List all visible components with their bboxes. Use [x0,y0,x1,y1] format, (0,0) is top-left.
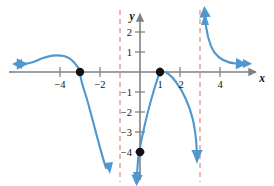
x-tick-label--4: −4 [54,79,66,90]
function-curves [18,16,246,176]
point-x-intercept-1 [156,68,164,76]
x-axis [9,67,256,77]
x-tick-label-4: 4 [217,79,223,90]
y-tick-label-1: 1 [127,47,132,58]
x-tick-label-2: 2 [178,79,183,90]
asymptote-lines [120,10,200,182]
x-tick-label--2: −2 [94,79,105,90]
y-tick-label--3: −3 [121,127,132,138]
function-graph-figure: −4 −2 1 2 4 2 1 −1 −2 −3 −4 x y [0,0,274,186]
arrow-left-branch [12,59,22,69]
point-y-intercept-neg4 [136,148,144,156]
curve-branch-middle [137,72,197,176]
y-tick-label--4: −4 [121,147,133,158]
x-tick-labels: −4 −2 1 2 4 [54,79,223,90]
y-tick-label-2: 2 [127,27,132,38]
x-tick-label-1: 1 [157,79,162,90]
y-tick-label--1: −1 [121,87,132,98]
curve-arrowheads [12,13,252,182]
y-tick-labels: 2 1 −1 −2 −3 −4 [121,27,133,158]
curve-branch-right [205,16,246,64]
arrow-right-branch [243,59,252,68]
y-axis-label: y [127,10,135,23]
point-x-intercept-neg3 [76,68,84,76]
y-tick-label--2: −2 [121,107,132,118]
graph-canvas: −4 −2 1 2 4 2 1 −1 −2 −3 −4 x y [0,0,274,186]
x-axis-label: x [258,72,265,84]
arrow-up-right-branch [201,13,209,25]
